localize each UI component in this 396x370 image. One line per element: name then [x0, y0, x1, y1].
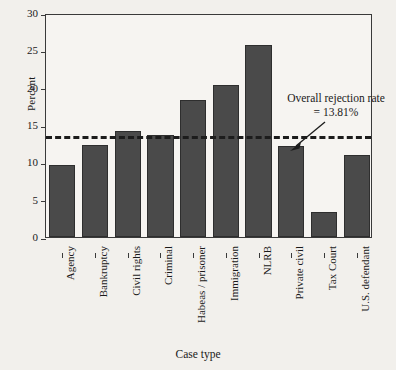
x-tick-label: Agency — [65, 246, 76, 280]
x-tick-label: NLRB — [262, 246, 273, 275]
bar — [115, 131, 141, 237]
x-tick-label: Habeas / prisoner — [196, 246, 207, 323]
bar — [49, 165, 75, 237]
x-tick-label: Civil rights — [131, 246, 142, 296]
plot-area: Percent 051015202530 Overall rejection r… — [45, 14, 372, 238]
y-tick-mark — [41, 239, 46, 240]
x-tick-label: Criminal — [163, 246, 174, 285]
bar — [245, 45, 271, 237]
bar — [180, 100, 206, 237]
bar — [278, 146, 304, 237]
y-tick-label: 25 — [27, 44, 38, 56]
x-tick — [259, 253, 260, 258]
reference-line-annotation: Overall rejection rate = 13.81% — [256, 91, 396, 119]
y-tick-label: 10 — [27, 156, 38, 168]
x-tick — [193, 253, 194, 258]
x-tick — [324, 253, 325, 258]
chart-page: Percent 051015202530 Overall rejection r… — [0, 0, 396, 370]
y-tick-label: 15 — [27, 119, 38, 131]
bar — [82, 145, 108, 237]
x-tick-label: Bankruptcy — [98, 246, 109, 297]
x-axis-title: Case type — [0, 348, 396, 360]
bar-series — [46, 15, 371, 237]
x-tick-label: U.S. defendant — [360, 246, 371, 312]
annotation-line-2: = 13.81% — [256, 105, 396, 119]
y-tick-label: 0 — [33, 231, 39, 243]
x-tick — [95, 253, 96, 258]
x-tick — [226, 253, 227, 258]
reference-line-overall-rejection-rate — [46, 136, 371, 139]
y-tick-label: 30 — [27, 7, 38, 19]
x-tick-label: Tax Court — [327, 246, 338, 290]
x-tick — [357, 253, 358, 258]
bar — [213, 85, 239, 237]
annotation-line-1: Overall rejection rate — [287, 92, 385, 104]
bar — [344, 155, 370, 237]
bar — [147, 135, 173, 237]
x-tick — [128, 253, 129, 258]
y-tick-label: 20 — [27, 82, 38, 94]
y-tick-label: 5 — [33, 194, 39, 206]
bar — [311, 212, 337, 237]
x-tick-label: Private civil — [294, 246, 305, 299]
x-tick-label: Immigration — [229, 246, 240, 301]
